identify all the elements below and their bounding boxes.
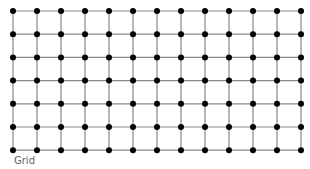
grid-node bbox=[202, 8, 208, 14]
grid-node bbox=[82, 8, 88, 14]
grid-node bbox=[178, 54, 184, 60]
grid-node bbox=[34, 54, 40, 60]
grid-node bbox=[298, 54, 304, 60]
grid-node bbox=[106, 147, 112, 153]
grid-node bbox=[10, 31, 16, 37]
grid-node bbox=[298, 147, 304, 153]
grid-node bbox=[154, 8, 160, 14]
grid-diagram bbox=[0, 0, 310, 169]
grid-node bbox=[10, 147, 16, 153]
grid-node bbox=[226, 54, 232, 60]
grid-node bbox=[298, 78, 304, 84]
grid-node bbox=[58, 31, 64, 37]
grid-node bbox=[58, 54, 64, 60]
grid-node bbox=[226, 147, 232, 153]
grid-node bbox=[274, 78, 280, 84]
grid-node bbox=[154, 147, 160, 153]
caption: Grid bbox=[14, 155, 35, 166]
grid-node bbox=[298, 31, 304, 37]
grid-node bbox=[10, 8, 16, 14]
grid-node bbox=[58, 124, 64, 130]
grid-node bbox=[130, 101, 136, 107]
grid-node bbox=[58, 78, 64, 84]
grid-node bbox=[298, 124, 304, 130]
grid-node bbox=[58, 147, 64, 153]
grid-node bbox=[82, 54, 88, 60]
grid-node bbox=[130, 8, 136, 14]
grid-node bbox=[34, 31, 40, 37]
grid-node bbox=[226, 101, 232, 107]
grid-node bbox=[274, 54, 280, 60]
grid-node bbox=[82, 78, 88, 84]
grid-node bbox=[250, 78, 256, 84]
grid-node bbox=[202, 78, 208, 84]
grid-node bbox=[106, 8, 112, 14]
grid-node bbox=[178, 31, 184, 37]
grid-node bbox=[298, 101, 304, 107]
grid-node bbox=[250, 31, 256, 37]
grid-node bbox=[178, 78, 184, 84]
grid-node bbox=[154, 54, 160, 60]
grid-node bbox=[250, 124, 256, 130]
grid-node bbox=[178, 101, 184, 107]
grid-node bbox=[10, 101, 16, 107]
grid-node bbox=[274, 101, 280, 107]
grid-node bbox=[82, 147, 88, 153]
grid-node bbox=[34, 124, 40, 130]
grid-node bbox=[154, 124, 160, 130]
grid-node bbox=[130, 124, 136, 130]
grid-node bbox=[130, 147, 136, 153]
grid-node bbox=[130, 54, 136, 60]
grid-node bbox=[250, 101, 256, 107]
grid-node bbox=[178, 147, 184, 153]
grid-node bbox=[202, 124, 208, 130]
grid-node bbox=[274, 8, 280, 14]
grid-node bbox=[250, 54, 256, 60]
grid-node bbox=[130, 31, 136, 37]
grid-node bbox=[274, 147, 280, 153]
grid-node bbox=[154, 78, 160, 84]
grid-node bbox=[34, 101, 40, 107]
grid-node bbox=[106, 31, 112, 37]
grid-node bbox=[106, 78, 112, 84]
grid-node bbox=[154, 31, 160, 37]
grid-node bbox=[10, 78, 16, 84]
grid-node bbox=[34, 8, 40, 14]
grid-node bbox=[202, 54, 208, 60]
grid-node bbox=[82, 101, 88, 107]
grid-node bbox=[82, 31, 88, 37]
grid-node bbox=[10, 124, 16, 130]
grid-node bbox=[298, 8, 304, 14]
grid-node bbox=[106, 54, 112, 60]
grid-node bbox=[130, 78, 136, 84]
grid-node bbox=[34, 78, 40, 84]
grid-node bbox=[34, 147, 40, 153]
grid-node bbox=[202, 31, 208, 37]
grid-node bbox=[82, 124, 88, 130]
grid-node bbox=[106, 101, 112, 107]
grid-node bbox=[154, 101, 160, 107]
grid-node bbox=[58, 101, 64, 107]
grid-node bbox=[178, 8, 184, 14]
grid-node bbox=[226, 78, 232, 84]
grid-node bbox=[202, 101, 208, 107]
grid-node bbox=[274, 124, 280, 130]
grid-node bbox=[10, 54, 16, 60]
grid-node bbox=[250, 147, 256, 153]
grid-node bbox=[202, 147, 208, 153]
grid-node bbox=[226, 31, 232, 37]
grid-node bbox=[106, 124, 112, 130]
grid-node bbox=[58, 8, 64, 14]
grid-node bbox=[250, 8, 256, 14]
grid-node bbox=[178, 124, 184, 130]
grid-node bbox=[226, 124, 232, 130]
grid-node bbox=[274, 31, 280, 37]
grid-node bbox=[226, 8, 232, 14]
